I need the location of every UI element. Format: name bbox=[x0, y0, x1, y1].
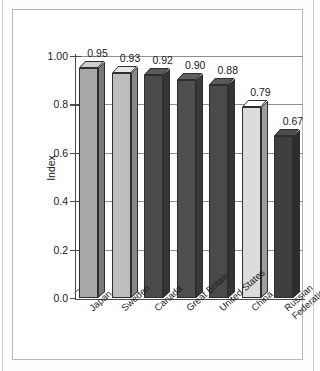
bar-side-face bbox=[261, 101, 268, 298]
bar-side-face bbox=[293, 130, 300, 298]
bar bbox=[112, 73, 131, 298]
bar-value-label: 0.90 bbox=[185, 59, 205, 71]
bar-value-label: 0.93 bbox=[120, 52, 140, 64]
y-axis-tick-label: 0.4 bbox=[53, 195, 68, 207]
y-axis-tick-label: 0.6 bbox=[53, 147, 68, 159]
bar-side-face bbox=[196, 74, 203, 298]
plot-area: 0.00.20.40.60.81.00 0.950.930.920.900.88… bbox=[75, 56, 303, 298]
bar-front-face bbox=[144, 75, 163, 298]
bar-side-face bbox=[98, 62, 105, 298]
bar bbox=[274, 136, 293, 298]
bar-side-face bbox=[163, 69, 170, 298]
y-axis-tick-label: 0.8 bbox=[53, 98, 68, 110]
outer-rule-right bbox=[313, 0, 314, 371]
bar-front-face bbox=[209, 85, 228, 298]
bar-value-label: 0.79 bbox=[250, 86, 270, 98]
gridline bbox=[75, 56, 303, 57]
y-axis-title: Index bbox=[45, 155, 57, 181]
y-axis-tick-inner bbox=[75, 56, 81, 57]
y-axis-tick-label: 0.2 bbox=[53, 244, 68, 256]
bar-value-label: 0.92 bbox=[152, 54, 172, 66]
chart-figure: Index 0.00.20.40.60.81.00 0.950.930.920.… bbox=[0, 0, 315, 371]
bar-side-face bbox=[228, 79, 235, 298]
bar-front-face bbox=[79, 68, 98, 298]
bar-value-label: 0.67 bbox=[283, 115, 303, 127]
bar bbox=[177, 80, 196, 298]
bar bbox=[79, 68, 98, 298]
bar-front-face bbox=[112, 73, 131, 298]
bar bbox=[209, 85, 228, 298]
bar-front-face bbox=[274, 136, 293, 298]
bar-value-label: 0.95 bbox=[87, 47, 107, 59]
y-axis-tick-label: 0.0 bbox=[53, 292, 68, 304]
chart-panel: Index 0.00.20.40.60.81.00 0.950.930.920.… bbox=[12, 9, 303, 360]
bar-front-face bbox=[177, 80, 196, 298]
bar-value-label: 0.88 bbox=[218, 64, 238, 76]
bar-side-face bbox=[131, 67, 138, 298]
y-axis-tick-label: 1.00 bbox=[48, 50, 68, 62]
bar bbox=[144, 75, 163, 298]
y-axis-tick bbox=[70, 298, 75, 299]
outer-rule-left bbox=[2, 0, 3, 371]
